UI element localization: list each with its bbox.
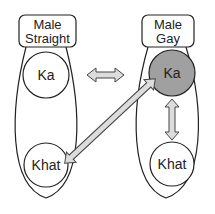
gay-ka-khat-double-arrow (165, 99, 179, 140)
gay-khat-label: Khat (158, 156, 187, 172)
diagram-canvas: Male Straight Male Gay Ka Khat Ka Khat (0, 0, 215, 214)
straight-title-line2: Straight (25, 31, 70, 46)
straight-khat-label: Khat (32, 157, 61, 173)
straight-ka-label: Ka (37, 67, 54, 83)
gay-ka-straight-khat-double-arrow (60, 74, 160, 169)
straight-title-line1: Male (33, 17, 61, 32)
gay-ka-label: Ka (163, 65, 180, 81)
gay-title-line1: Male (154, 17, 182, 32)
gay-title-line2: Gay (156, 31, 180, 46)
ka-ka-double-arrow (87, 68, 124, 82)
